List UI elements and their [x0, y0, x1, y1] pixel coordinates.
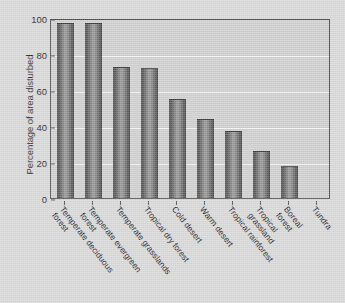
bar — [281, 166, 298, 198]
bar — [197, 119, 214, 198]
y-tick-mark — [51, 164, 55, 165]
y-tick-label: 20 — [1, 159, 47, 169]
bar — [141, 68, 158, 198]
bar — [85, 23, 102, 198]
bar — [169, 99, 186, 198]
bar — [253, 151, 270, 198]
bar — [225, 131, 242, 198]
x-axis-labels: Temperate deciduous forestTemperate ever… — [50, 201, 330, 303]
chart-title — [0, 0, 345, 2]
y-tick-mark — [51, 128, 55, 129]
x-tick-label: Tundra — [310, 205, 334, 232]
y-tick-label: 40 — [1, 123, 47, 133]
plot-area: 020406080100 — [50, 19, 330, 199]
y-axis-title: Percentage of area disturbed — [24, 22, 35, 207]
y-tick-mark — [51, 20, 55, 21]
y-tick-mark — [51, 92, 55, 93]
y-tick-mark — [51, 56, 55, 57]
bar-chart-figure: Percentage of area disturbed 02040608010… — [0, 0, 345, 303]
y-tick-label: 60 — [1, 87, 47, 97]
bar — [57, 23, 74, 198]
y-tick-label: 0 — [1, 195, 47, 205]
y-tick-label: 100 — [1, 15, 47, 25]
y-tick-label: 80 — [1, 51, 47, 61]
bar — [113, 67, 130, 198]
